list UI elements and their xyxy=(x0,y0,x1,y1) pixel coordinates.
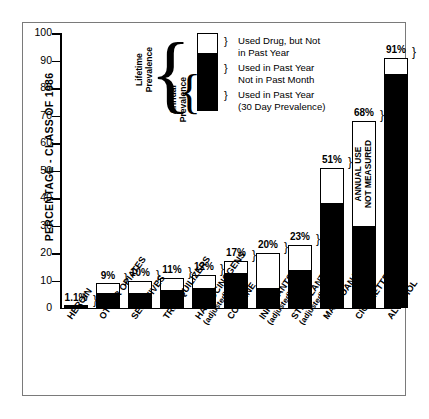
legend-key-white-segment xyxy=(198,34,217,54)
bar-value-stimulants: 23% xyxy=(280,231,320,242)
y-tick-40 xyxy=(52,198,61,200)
bar-value-cigarettes: 68% xyxy=(344,107,384,118)
lifetime-prevalence-line2: Prevalence xyxy=(144,47,154,92)
legend-item-2: Used in Past Year Not in Past Month xyxy=(238,62,314,85)
annual-prevalence-line1: Annual xyxy=(168,85,178,114)
y-tick-10 xyxy=(52,281,61,283)
legend-item-3-line2: (30 Day Prevalence) xyxy=(238,101,325,113)
legend-item-2-line1: Used in Past Year xyxy=(238,62,314,74)
bar-alcohol-white xyxy=(384,58,408,75)
y-tick-label-0: 0 xyxy=(6,301,52,313)
bar-brace-alcohol: } xyxy=(412,46,416,58)
legend-item-3-line1: Used in Past Year xyxy=(238,89,325,101)
legend-brace-1: } xyxy=(224,36,228,47)
y-tick-90 xyxy=(52,61,61,63)
y-tick-label-30: 30 xyxy=(6,219,52,231)
annual-use-not-measured-line2: NOT MEASURED xyxy=(363,140,373,208)
annual-prevalence-label: Annual Prevalence xyxy=(169,62,188,138)
bar-marijuana-white xyxy=(320,168,344,204)
legend-item-1-line2: in Past Year xyxy=(238,47,320,59)
y-tick-label-20: 20 xyxy=(6,246,52,258)
y-tick-80 xyxy=(52,88,61,90)
legend-item-1: Used Drug, but Not in Past Year xyxy=(238,35,320,58)
annual-prevalence-line2: Prevalence xyxy=(178,77,188,122)
y-tick-label-90: 90 xyxy=(6,54,52,66)
lifetime-prevalence-line1: Lifetime xyxy=(134,53,144,86)
bar-inhalants-white xyxy=(256,253,280,289)
y-axis-title: PERCENTAGE - CLASS OF 1986 xyxy=(43,47,55,267)
bar-value-marijuana: 51% xyxy=(312,154,352,165)
y-tick-70 xyxy=(52,116,61,118)
legend-brace-3: } xyxy=(224,90,228,101)
lifetime-prevalence-label: Lifetime Prevalence xyxy=(135,30,154,110)
y-tick-label-80: 80 xyxy=(6,81,52,93)
bar-cigarettes-white: ANNUAL USE NOT MEASURED xyxy=(352,121,376,227)
y-tick-label-100: 100 xyxy=(6,26,52,38)
y-tick-30 xyxy=(52,226,61,228)
y-tick-label-50: 50 xyxy=(6,164,52,176)
bar-stimulants-white xyxy=(288,245,312,271)
bar-value-alcohol: 91% xyxy=(376,44,416,55)
annual-use-not-measured-annotation: ANNUAL USE NOT MEASURED xyxy=(354,140,373,208)
y-axis-title-wrapper: PERCENTAGE - CLASS OF 1986 xyxy=(43,47,57,267)
legend-item-2-line2: Not in Past Month xyxy=(238,74,314,86)
y-tick-label-70: 70 xyxy=(6,109,52,121)
y-tick-label-60: 60 xyxy=(6,136,52,148)
legend-item-3: Used in Past Year (30 Day Prevalence) xyxy=(238,89,325,112)
y-tick-50 xyxy=(52,171,61,173)
y-tick-label-40: 40 xyxy=(6,191,52,203)
y-tick-100 xyxy=(52,33,61,35)
y-tick-label-10: 10 xyxy=(6,274,52,286)
annual-use-not-measured-line1: ANNUAL USE xyxy=(353,146,363,201)
y-tick-60 xyxy=(52,143,61,145)
plot-area: PERCENTAGE - CLASS OF 1986 100 90 80 70 … xyxy=(0,0,429,419)
legend-item-1-line1: Used Drug, but Not xyxy=(238,35,320,47)
y-tick-20 xyxy=(52,253,61,255)
legend-brace-2: } xyxy=(224,63,228,74)
chart-container: PERCENTAGE - CLASS OF 1986 100 90 80 70 … xyxy=(0,0,429,419)
